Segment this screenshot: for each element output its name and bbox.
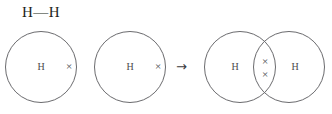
covalent-bond-diagram: H—H H × H × → H H × × — [0, 0, 332, 114]
product-right-atom-symbol: H — [286, 61, 304, 73]
molecular-formula-label: H—H — [22, 2, 60, 22]
reactant-2-atom-symbol: H — [121, 61, 139, 73]
reactant-2-electron-cross-icon: × — [152, 61, 164, 72]
shared-electron-cross-icon-2: × — [259, 69, 271, 80]
reaction-arrow-icon: → — [176, 60, 187, 73]
shared-electron-cross-icon-1: × — [259, 56, 271, 67]
product-left-atom-symbol: H — [226, 61, 244, 73]
reactant-1-electron-cross-icon: × — [63, 61, 75, 72]
reactant-1-atom-symbol: H — [32, 61, 50, 73]
